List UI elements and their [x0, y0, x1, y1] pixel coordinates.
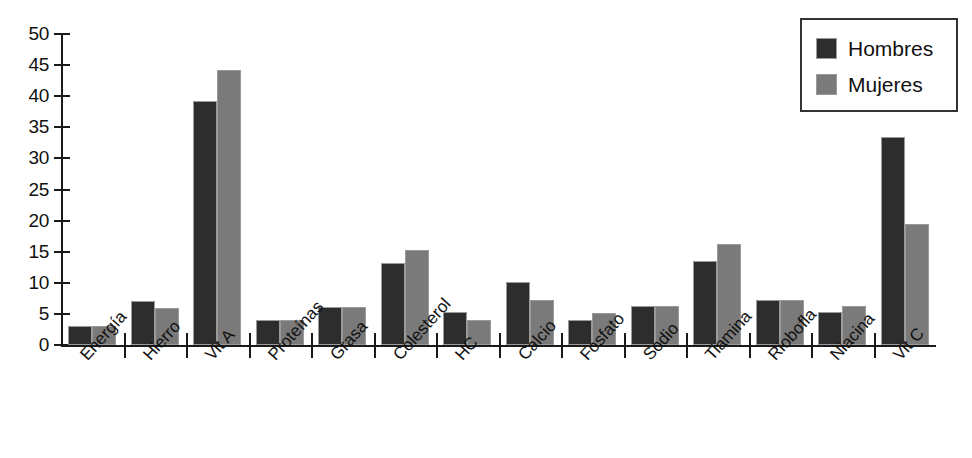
x-axis-separator — [749, 333, 751, 358]
y-axis-tick-label: 45 — [5, 55, 49, 74]
x-axis-separator — [499, 333, 501, 358]
x-axis-separator — [436, 333, 438, 358]
bar-group — [686, 34, 749, 345]
bar-chart: 05101520253035404550 EnergíaHierroVit AP… — [0, 0, 972, 458]
y-axis-tick-label: 10 — [5, 273, 49, 292]
bar-hombres — [693, 261, 717, 345]
bar-hombres — [193, 101, 217, 345]
y-axis-tick-label: 50 — [5, 24, 49, 43]
x-axis-separator — [124, 333, 126, 358]
x-axis-separator — [874, 333, 876, 358]
legend-label-hombres: Hombres — [848, 38, 933, 59]
bar-hombres — [381, 263, 405, 345]
y-axis-tick-label: 40 — [5, 86, 49, 105]
y-axis-tick-label: 5 — [5, 304, 49, 323]
legend-swatch-mujeres — [816, 74, 837, 95]
bar-group — [249, 34, 312, 345]
x-axis-separator — [686, 333, 688, 358]
legend-item-hombres: Hombres — [816, 30, 956, 66]
bar-group — [311, 34, 374, 345]
bar-group — [561, 34, 624, 345]
bar-hombres — [881, 137, 905, 345]
x-axis-separator — [624, 333, 626, 358]
bar-group — [124, 34, 187, 345]
y-axis-tick-label: 30 — [5, 148, 49, 167]
y-axis-tick-label: 25 — [5, 180, 49, 199]
legend-swatch-hombres — [816, 38, 837, 59]
x-axis-separator — [186, 333, 188, 358]
bar-group — [186, 34, 249, 345]
x-axis-separator — [374, 333, 376, 358]
bar-group — [61, 34, 124, 345]
bar-hombres — [506, 282, 530, 345]
y-axis-tick-label: 35 — [5, 117, 49, 136]
bar-group — [499, 34, 562, 345]
x-axis-separator — [249, 333, 251, 358]
x-axis-separator — [561, 333, 563, 358]
legend-item-mujeres: Mujeres — [816, 66, 956, 102]
x-axis-separator — [811, 333, 813, 358]
bar-mujeres — [217, 70, 241, 345]
y-axis-tick-label: 0 — [5, 335, 49, 354]
bar-group — [624, 34, 687, 345]
y-axis-tick-label: 20 — [5, 211, 49, 230]
x-axis-separator — [311, 333, 313, 358]
y-axis-tick-label: 15 — [5, 242, 49, 261]
bar-group — [374, 34, 437, 345]
chart-legend: Hombres Mujeres — [800, 18, 958, 112]
legend-label-mujeres: Mujeres — [848, 74, 923, 95]
